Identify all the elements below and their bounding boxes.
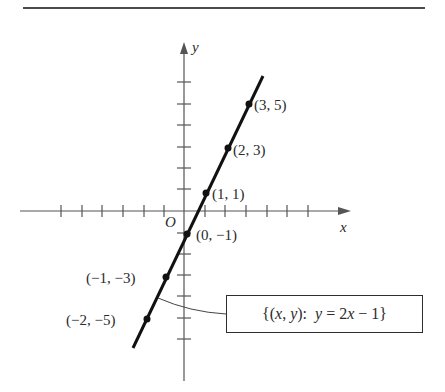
point-2-3 xyxy=(225,145,232,152)
set-notation-callout: {(x, y): y = 2x − 1} xyxy=(226,295,423,333)
point-1-1 xyxy=(203,190,210,197)
x-axis xyxy=(20,205,351,217)
point-label-neg2-neg5: (−2, −5) xyxy=(66,312,115,329)
legend-eq: = 2 xyxy=(322,305,347,323)
y-axis-label: y xyxy=(190,39,199,55)
point-label-2-3: (2, 3) xyxy=(233,142,266,159)
legend-x2: x xyxy=(347,305,354,323)
legend-tail: − 1} xyxy=(354,305,387,323)
origin-label: O xyxy=(165,214,176,230)
x-axis-label: x xyxy=(339,219,347,235)
legend-y: y xyxy=(290,305,297,323)
legend-comma: , xyxy=(282,305,290,323)
coordinate-plane: y x O (3, 5) (2, 3) (1, 1) (0, −1) (−1, … xyxy=(0,0,445,392)
point-label-3-5: (3, 5) xyxy=(254,97,287,114)
point-label-neg1-neg3: (−1, −3) xyxy=(86,270,135,287)
legend-y2: y xyxy=(315,305,322,323)
top-rule xyxy=(23,7,425,9)
legend-colon: ): xyxy=(297,305,315,323)
callout-connector xyxy=(158,298,226,314)
x-axis-arrow-icon xyxy=(338,207,351,215)
point-label-1-1: (1, 1) xyxy=(212,186,245,203)
legend-x: x xyxy=(275,305,282,323)
y-axis-arrow-icon xyxy=(180,42,188,54)
point-0-neg1 xyxy=(184,231,191,238)
legend-prefix: {( xyxy=(262,305,275,323)
point-neg1-neg3 xyxy=(163,274,170,281)
point-neg2-neg5 xyxy=(144,316,151,323)
point-label-0-neg1: (0, −1) xyxy=(196,227,237,244)
point-3-5 xyxy=(246,101,253,108)
